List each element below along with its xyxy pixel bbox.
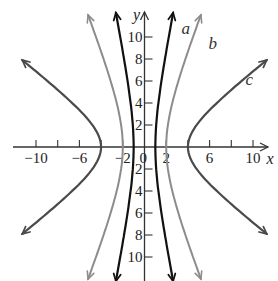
y-tick-label: 8 [135,227,143,243]
y-tick-label: 6 [135,205,143,221]
x-tick-label: −10 [24,150,47,166]
x-tick-label: 6 [206,150,214,166]
labels: xyabc [131,6,274,167]
x-tick-label: 10 [246,150,261,166]
y-tick-label: 2 [135,117,143,133]
y-tick-label: 10 [128,29,143,45]
y-tick-label: 6 [135,73,143,89]
curve-label-a: a [181,19,190,38]
y-tick-label: 4 [135,95,143,111]
y-tick-label: 2 [135,161,143,177]
curve-label-c: c [245,70,253,89]
curve-label-b: b [209,34,218,53]
x-axis-label: x [265,150,273,167]
hyperbola-chart: −10−6−202610108642246810 xyabc [0,0,278,281]
y-tick-label: 8 [135,51,143,67]
y-tick-label: 10 [128,249,143,265]
y-axis-label: y [131,6,141,24]
x-tick-label: −6 [71,150,87,166]
y-tick-label: 4 [135,183,143,199]
